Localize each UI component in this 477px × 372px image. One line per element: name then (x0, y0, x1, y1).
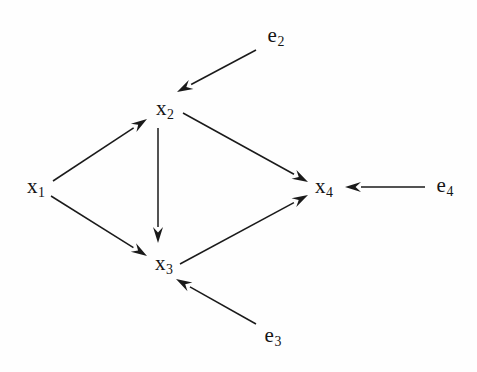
node-label-e4: e4 (437, 175, 454, 199)
node-label-x4: x4 (315, 176, 333, 200)
node-label-x2: x2 (156, 98, 174, 122)
node-subscript-x4: 4 (326, 185, 333, 200)
arrowhead-x1-to-x3 (131, 243, 147, 256)
node-base-e3: e (265, 323, 274, 347)
node-label-x1: x1 (27, 176, 45, 200)
edge-x1-to-x2 (53, 128, 134, 181)
node-subscript-x1: 1 (38, 185, 45, 200)
node-subscript-x2: 2 (167, 107, 174, 122)
node-subscript-e3: 3 (274, 334, 281, 349)
node-label-e2: e2 (268, 25, 285, 49)
arrowhead-x1-to-x2 (131, 119, 147, 132)
arrowhead-x2-to-x3 (153, 227, 163, 243)
node-label-e3: e3 (265, 325, 282, 349)
node-subscript-x3: 3 (166, 262, 173, 277)
edge-e3-to-x3 (190, 287, 256, 324)
edge-x3-to-x4 (180, 203, 294, 264)
arrowhead-x2-to-x4 (292, 170, 308, 182)
node-subscript-e4: 4 (446, 184, 453, 199)
node-base-x1: x (27, 174, 38, 198)
node-subscript-e2: 2 (277, 34, 284, 49)
node-base-x2: x (156, 96, 167, 120)
node-base-e4: e (437, 173, 446, 197)
edge-e2-to-x2 (191, 50, 256, 84)
graph-edges-layer (0, 0, 477, 372)
node-base-e2: e (268, 23, 277, 47)
edge-x1-to-x3 (51, 196, 133, 248)
edge-x2-to-x4 (183, 113, 294, 174)
node-base-x3: x (155, 251, 166, 275)
node-label-x3: x3 (155, 253, 173, 277)
node-base-x4: x (315, 174, 326, 198)
edges-group (51, 50, 425, 324)
arrowhead-e2-to-x2 (177, 80, 193, 92)
diagram-canvas: x1x2x3x4e2e3e4 (0, 0, 477, 372)
arrowhead-e4-to-x4 (345, 182, 361, 192)
arrowhead-x3-to-x4 (292, 195, 308, 207)
arrowhead-e3-to-x3 (176, 279, 192, 291)
